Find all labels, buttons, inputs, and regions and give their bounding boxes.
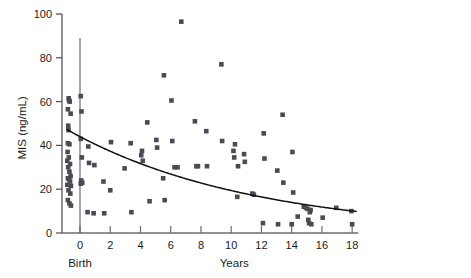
data-point xyxy=(236,164,241,169)
data-point xyxy=(139,153,144,158)
plot-canvas: 020406080100024681012141618MIS (ng/mL)Bi… xyxy=(0,0,471,278)
y-axis-title: MIS (ng/mL) xyxy=(16,96,28,159)
data-point xyxy=(205,164,210,169)
data-point xyxy=(155,145,160,150)
data-point xyxy=(87,161,92,166)
data-point xyxy=(170,139,175,144)
x-tick-label: 12 xyxy=(255,239,267,251)
data-point xyxy=(295,214,300,219)
data-point xyxy=(309,222,314,227)
data-point xyxy=(79,109,84,114)
data-point xyxy=(66,107,71,112)
data-point xyxy=(102,211,107,216)
data-point xyxy=(289,222,294,227)
data-point xyxy=(69,203,74,208)
x-tick-label: 16 xyxy=(316,239,328,251)
data-point xyxy=(161,176,166,181)
data-point xyxy=(220,139,225,144)
data-point xyxy=(281,180,286,185)
data-point xyxy=(67,169,72,174)
data-point xyxy=(261,221,266,226)
data-point xyxy=(140,158,145,163)
x-tick-label: 14 xyxy=(286,239,298,251)
data-point xyxy=(280,112,285,117)
data-point xyxy=(262,156,267,161)
data-point xyxy=(242,152,247,157)
y-tick-label: 60 xyxy=(40,96,52,108)
data-point xyxy=(129,210,134,215)
x-tick-label: 8 xyxy=(198,239,204,251)
data-point xyxy=(276,222,281,227)
years-axis-label: Years xyxy=(220,257,249,269)
data-point xyxy=(235,195,240,200)
data-point xyxy=(69,184,74,189)
scatter-series xyxy=(65,19,354,226)
data-point xyxy=(291,190,296,195)
x-tick-label: 4 xyxy=(137,239,143,251)
y-tick-label: 40 xyxy=(40,139,52,151)
data-point xyxy=(193,119,198,124)
x-tick-label: 2 xyxy=(107,239,113,251)
data-point xyxy=(109,140,114,145)
data-point xyxy=(78,94,83,99)
data-point xyxy=(122,166,127,171)
data-point xyxy=(154,138,159,143)
data-point xyxy=(78,181,83,186)
data-point xyxy=(169,98,174,103)
data-point xyxy=(233,142,238,147)
data-point xyxy=(85,210,90,215)
data-point xyxy=(231,149,236,154)
data-point xyxy=(67,142,72,147)
y-tick-label: 0 xyxy=(46,227,52,239)
data-point xyxy=(308,208,313,213)
x-tick-label: 10 xyxy=(225,239,237,251)
data-point xyxy=(128,141,133,146)
data-point xyxy=(290,150,295,155)
birth-label: Birth xyxy=(68,257,92,269)
y-tick-label: 20 xyxy=(40,183,52,195)
y-tick-label: 100 xyxy=(34,8,52,20)
data-point xyxy=(108,188,113,193)
data-point xyxy=(162,73,167,78)
data-point xyxy=(67,99,72,104)
x-tick-label: 0 xyxy=(77,239,83,251)
data-point xyxy=(68,191,73,196)
data-point xyxy=(92,163,97,168)
data-point xyxy=(66,165,71,170)
data-point xyxy=(101,179,106,184)
data-point xyxy=(147,199,152,204)
data-point xyxy=(320,215,325,220)
data-point xyxy=(80,155,85,160)
scatter-plot-figure: 020406080100024681012141618MIS (ng/mL)Bi… xyxy=(0,0,471,278)
data-point xyxy=(275,168,280,173)
data-point xyxy=(66,123,71,128)
data-point xyxy=(145,120,150,125)
data-point xyxy=(86,144,91,149)
data-point xyxy=(179,19,184,24)
data-point xyxy=(91,211,96,216)
data-point xyxy=(162,198,167,203)
data-point xyxy=(65,150,70,155)
x-tick-label: 6 xyxy=(168,239,174,251)
data-point xyxy=(68,111,73,116)
data-point xyxy=(219,62,224,67)
data-point xyxy=(204,129,209,134)
x-tick-label: 18 xyxy=(346,239,358,251)
data-point xyxy=(261,131,266,136)
y-tick-label: 80 xyxy=(40,52,52,64)
data-point xyxy=(243,160,248,165)
data-point xyxy=(175,165,180,170)
data-point xyxy=(196,164,201,169)
data-point xyxy=(350,222,355,227)
data-point xyxy=(232,155,237,160)
data-point xyxy=(140,149,145,154)
